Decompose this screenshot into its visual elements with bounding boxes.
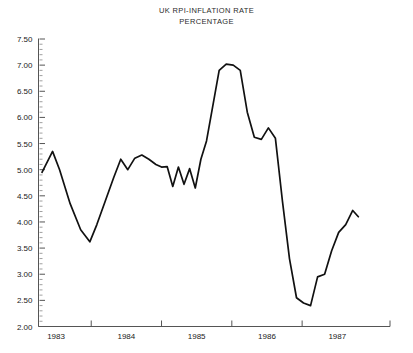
chart-plot-area: 7.507.006.506.005.505.004.504.003.503.00…: [0, 0, 413, 353]
y-tick-label: 2.00: [17, 323, 33, 332]
y-tick-label: 4.50: [17, 192, 33, 201]
y-tick-label: 5.00: [17, 166, 33, 175]
y-tick-label: 3.00: [17, 270, 33, 279]
x-tick-label: 1987: [328, 332, 346, 341]
data-series-group: [42, 64, 358, 306]
x-tick-label: 1986: [258, 332, 276, 341]
series-line: [42, 64, 358, 306]
y-tick-label: 3.50: [17, 244, 33, 253]
y-tick-label: 6.50: [17, 87, 33, 96]
chart-root: UK RPI-INFLATION RATE PERCENTAGE 7.507.0…: [0, 0, 413, 353]
x-axis: 19831984198519861987: [39, 321, 391, 341]
y-tick-label: 6.00: [17, 113, 33, 122]
y-axis: 7.507.006.506.005.505.004.504.003.503.00…: [17, 35, 45, 332]
x-tick-label: 1985: [188, 332, 206, 341]
y-tick-label: 7.00: [17, 61, 33, 70]
y-tick-label: 4.00: [17, 218, 33, 227]
x-tick-label: 1983: [47, 332, 65, 341]
x-tick-label: 1984: [117, 332, 135, 341]
y-tick-label: 7.50: [17, 35, 33, 44]
y-tick-label: 2.50: [17, 296, 33, 305]
y-tick-label: 5.50: [17, 140, 33, 149]
